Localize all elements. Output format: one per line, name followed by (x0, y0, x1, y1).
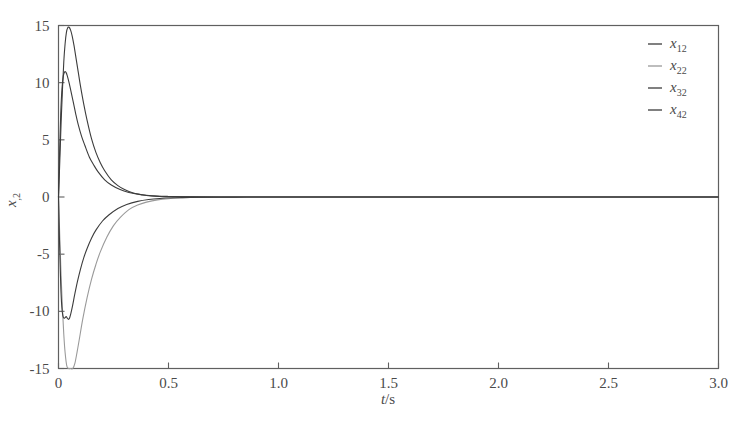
chart-legend: x12x22x32x42 (648, 35, 687, 120)
y-axis-ticks: 151050-5-10-15 (30, 18, 65, 377)
x-tick-label: 2.5 (599, 375, 618, 391)
y-axis-title: x,2 (3, 193, 22, 208)
legend-label-3: x42 (669, 101, 687, 120)
line-chart: 00.51.01.52.02.53.0 151050-5-10-15 t/s x… (0, 0, 747, 428)
x-tick-label: 0.5 (159, 375, 178, 391)
legend-label-2: x32 (669, 79, 687, 98)
series-line-x42 (59, 197, 719, 319)
chart-series-group (59, 27, 719, 369)
y-tick-label: -15 (30, 361, 50, 377)
x-axis-title: t/s (381, 391, 395, 407)
chart-figure: 00.51.01.52.02.53.0 151050-5-10-15 t/s x… (0, 0, 747, 428)
y-tick-label: 0 (42, 189, 50, 205)
x-tick-label: 2.0 (489, 375, 508, 391)
x-tick-label: 3.0 (709, 375, 728, 391)
y-tick-label: 15 (35, 18, 50, 34)
y-tick-label: -10 (30, 303, 50, 319)
x-tick-label: 1.5 (379, 375, 398, 391)
x-axis-ticks: 00.51.01.52.02.53.0 (55, 363, 728, 391)
x-tick-label: 1.0 (269, 375, 288, 391)
y-tick-label: -5 (37, 246, 50, 262)
x-tick-label: 0 (55, 375, 63, 391)
series-line-x32 (59, 72, 719, 197)
legend-label-1: x22 (669, 57, 687, 76)
legend-label-0: x12 (669, 35, 687, 54)
series-line-x12 (59, 27, 719, 197)
y-tick-label: 10 (35, 75, 50, 91)
series-line-x22 (59, 197, 719, 369)
y-tick-label: 5 (42, 132, 50, 148)
